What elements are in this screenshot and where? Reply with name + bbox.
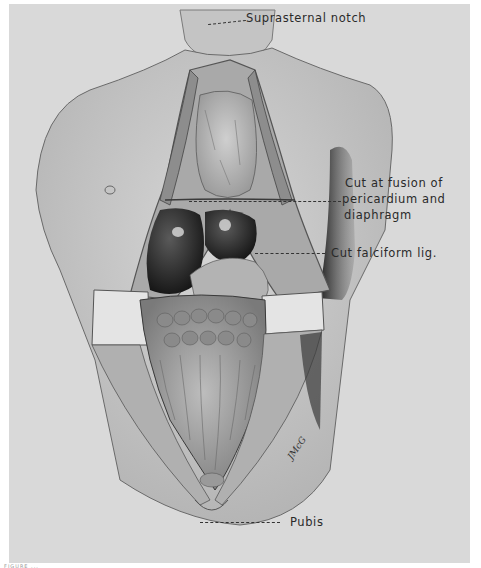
figure-caption-cropped: FIGURE ... xyxy=(4,563,39,568)
torso-drawing: JMcG xyxy=(9,4,470,563)
leader-cut-fusion xyxy=(189,201,341,202)
label-cut-fusion-line1: Cut at fusion of xyxy=(345,176,443,190)
leader-cut-falciform xyxy=(255,253,325,254)
anatomical-illustration: JMcG Suprasternal notch Cut at fusion of… xyxy=(9,4,470,563)
label-suprasternal-notch: Suprasternal notch xyxy=(246,11,366,25)
label-pubis: Pubis xyxy=(290,515,324,529)
label-cut-falciform: Cut falciform lig. xyxy=(331,246,437,260)
label-cut-fusion-line3: diaphragm xyxy=(344,208,412,222)
label-cut-fusion-line2: pericardium and xyxy=(342,192,445,206)
leader-pubis xyxy=(200,522,280,523)
